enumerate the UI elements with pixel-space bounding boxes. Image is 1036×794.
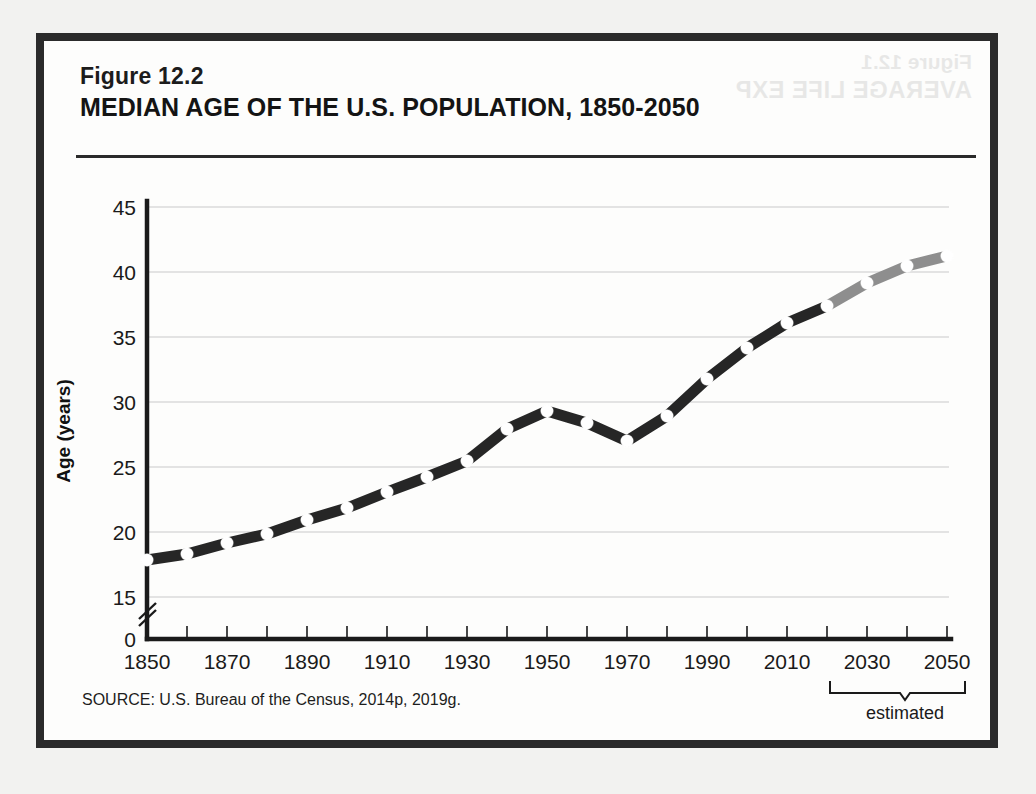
data-point: [621, 435, 633, 447]
median-age-line-chart: Age (years) 45 40 35 30 25 20 15 0: [44, 41, 990, 740]
series-estimated-line: [827, 256, 947, 306]
x-tick-1930: 1930: [444, 650, 491, 673]
estimated-bracket: [830, 681, 965, 700]
y-tick-30: 30: [113, 391, 136, 414]
x-tick-2010: 2010: [764, 650, 811, 673]
y-tick-35: 35: [113, 326, 136, 349]
x-tick-2050: 2050: [924, 650, 971, 673]
y-tick-15: 15: [113, 586, 136, 609]
x-tick-2030: 2030: [844, 650, 891, 673]
data-point: [421, 471, 433, 483]
data-point: [741, 342, 753, 354]
data-point: [301, 514, 313, 526]
data-point: [541, 405, 553, 417]
y-tick-45: 45: [113, 196, 136, 219]
data-point: [461, 455, 473, 467]
y-axis-label: Age (years): [53, 379, 74, 483]
data-point: [581, 417, 593, 429]
data-point: [341, 502, 353, 514]
data-point: [781, 317, 793, 329]
data-point: [941, 250, 953, 262]
y-tick-40: 40: [113, 261, 136, 284]
y-tick-0: 0: [124, 628, 136, 651]
figure-frame: Figure 12.1 AVERAGE LIFE EXP Figure 12.2…: [36, 33, 998, 748]
x-tick-1850: 1850: [124, 650, 171, 673]
data-point: [381, 486, 393, 498]
x-tick-1990: 1990: [684, 650, 731, 673]
series-actual-line: [147, 306, 827, 560]
data-point: [861, 277, 873, 289]
estimated-label: estimated: [866, 703, 944, 723]
x-tick-1890: 1890: [284, 650, 331, 673]
data-point: [701, 373, 713, 385]
data-point: [141, 554, 153, 566]
figure-source: SOURCE: U.S. Bureau of the Census, 2014p…: [82, 691, 461, 709]
data-point: [261, 528, 273, 540]
y-tick-20: 20: [113, 521, 136, 544]
data-point: [501, 423, 513, 435]
data-point: [221, 537, 233, 549]
data-point: [181, 548, 193, 560]
data-point: [901, 260, 913, 272]
x-tick-1950: 1950: [524, 650, 571, 673]
data-point: [821, 300, 833, 312]
data-point: [661, 410, 673, 422]
x-tick-1970: 1970: [604, 650, 651, 673]
x-tick-1910: 1910: [364, 650, 411, 673]
x-tick-1870: 1870: [204, 650, 251, 673]
chart-plot-area: Age (years) 45 40 35 30 25 20 15 0: [44, 41, 990, 740]
y-tick-25: 25: [113, 456, 136, 479]
